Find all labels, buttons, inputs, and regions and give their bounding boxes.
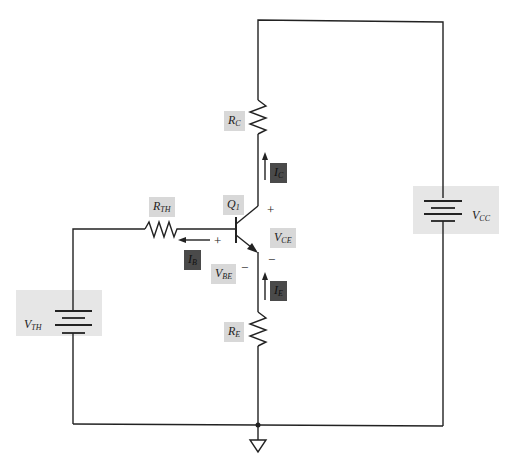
vbe-plus-sign: + [214, 233, 221, 249]
ground-node [256, 423, 261, 428]
label-vth: VTH [24, 318, 42, 332]
label-vbe: VBE [211, 264, 236, 284]
label-re: RE [224, 322, 244, 342]
label-vcc: VCC [472, 209, 490, 223]
wire-left [73, 229, 145, 302]
label-vce: VCE [270, 228, 296, 248]
resistor-rth [145, 222, 236, 237]
label-rc: RC [224, 111, 245, 131]
label-ic: IC [270, 163, 287, 183]
label-rth: RTH [149, 197, 175, 217]
ground-symbol [250, 440, 266, 452]
label-ib: IB [184, 250, 201, 270]
label-q1: Q1 [223, 195, 244, 215]
vce-minus-sign: − [268, 252, 275, 268]
vce-plus-sign: + [267, 202, 274, 218]
circuit-schematic [0, 0, 511, 464]
resistor-rc [250, 100, 266, 134]
resistor-re [250, 312, 266, 346]
label-ie: IE [270, 281, 287, 301]
vbe-minus-sign: − [241, 260, 248, 276]
